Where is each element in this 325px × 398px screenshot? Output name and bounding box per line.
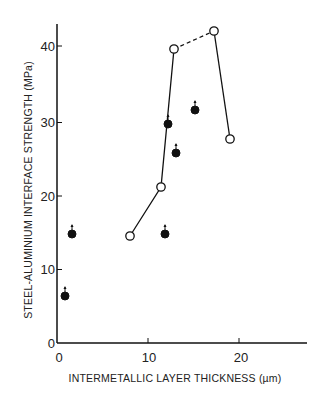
x-tick-label: 10 xyxy=(142,350,156,365)
filled-circle-markers xyxy=(61,100,199,300)
open-point xyxy=(157,183,165,191)
filled-point-arrow-up xyxy=(61,286,69,300)
y-tick-labels: 0 10 20 30 40 xyxy=(41,39,55,351)
open-point xyxy=(210,27,218,35)
filled-point-arrow-up xyxy=(172,143,180,157)
x-axis-title: INTERMETALLIC LAYER THICKNESS (µm) xyxy=(69,372,282,384)
y-tick-label: 0 xyxy=(48,336,55,351)
filled-point-arrow-up xyxy=(164,114,172,128)
y-axis-title: STEEL-ALUMINIUM INTERFACE STRENGTH (MPa) xyxy=(22,61,34,319)
open-point xyxy=(126,232,134,240)
chart-canvas: 0 10 20 30 40 0 10 20 INTERMETALLIC LAYE… xyxy=(0,0,325,398)
filled-point-arrow-up xyxy=(68,224,76,238)
x-tick-labels: 0 10 20 xyxy=(55,350,248,365)
filled-point-arrow-up xyxy=(191,100,199,114)
y-tick-label: 30 xyxy=(41,115,55,130)
open-series-line xyxy=(130,31,230,236)
y-tick-label: 10 xyxy=(41,262,55,277)
x-tick-label: 0 xyxy=(55,350,62,365)
filled-point-arrow-up xyxy=(161,224,169,238)
y-tick-label: 40 xyxy=(41,39,55,54)
y-tick-label: 20 xyxy=(41,189,55,204)
x-tick-label: 20 xyxy=(234,350,248,365)
open-point xyxy=(226,135,234,143)
open-point xyxy=(170,45,178,53)
